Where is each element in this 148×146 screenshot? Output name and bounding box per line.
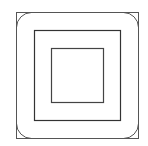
middle-square <box>35 31 121 121</box>
nested-squares-diagram <box>0 0 148 146</box>
inner-square <box>52 49 104 103</box>
